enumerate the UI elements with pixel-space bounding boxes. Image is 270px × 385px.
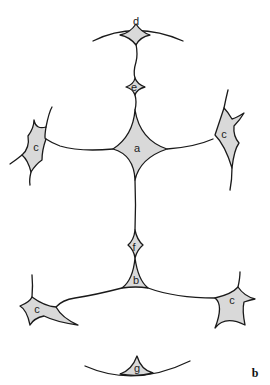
cell-label-d: d [133, 16, 139, 27]
panel-label: b [252, 366, 259, 381]
cell-label-e: e [131, 82, 137, 93]
a-right-c-process [167, 139, 213, 149]
lower-left-c-processes [32, 275, 33, 297]
cell-label-a: a [134, 143, 140, 154]
cell-label-b: b [133, 275, 139, 286]
cell-d-shape [120, 24, 150, 45]
b-lower-right-c-process [148, 288, 215, 298]
cell-label-f: f [132, 242, 135, 253]
d-e-process [134, 44, 137, 78]
cell-c-upper-right-shape [215, 108, 244, 168]
cell-label-c-lower-right: c [229, 295, 235, 306]
a-left-c-process [46, 139, 113, 150]
cell-c-lower-left-shape [20, 297, 78, 325]
lower-right-c-processes [238, 272, 240, 287]
cell-label-c-upper-right: c [221, 129, 227, 140]
cell-label-c-lower-left: c [34, 304, 40, 315]
cell-label-c-upper-left: c [33, 142, 39, 153]
cell-network-diagram [0, 0, 270, 385]
a-f-process [135, 180, 136, 230]
e-a-process [135, 95, 136, 110]
b-lower-left-c-process [56, 288, 122, 307]
cell-label-g: g [134, 363, 140, 374]
